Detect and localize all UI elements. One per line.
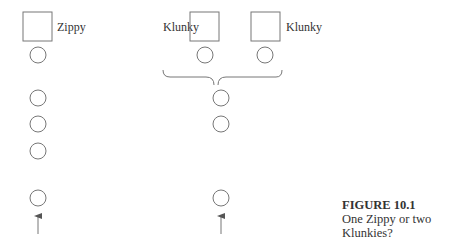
figure-number: FIGURE 10.1: [342, 198, 451, 212]
zippy-label: Zippy: [57, 20, 86, 34]
klunky-merged-circle-1: [213, 90, 229, 106]
figure-caption-text: One Zippy or two Klunkies?: [342, 212, 451, 240]
klunky-right-box: [251, 12, 280, 41]
klunky-left-circle: [197, 47, 213, 63]
zippy-circle-4: [30, 143, 46, 159]
zippy-box: [23, 12, 52, 41]
figure-caption: FIGURE 10.1 One Zippy or two Klunkies?: [342, 198, 451, 240]
zippy-circle-2: [30, 90, 46, 106]
klunky-left-label: Klunky: [163, 20, 199, 34]
klunky-merged-circle-2: [213, 116, 229, 132]
klunky-right-label: Klunky: [286, 20, 322, 34]
merge-brace: [163, 70, 282, 85]
klunky-right-circle: [257, 47, 273, 63]
zippy-circle-5: [30, 190, 46, 206]
klunky-merged-circle-3: [213, 190, 229, 206]
zippy-circle-1: [30, 47, 46, 63]
zippy-circle-3: [30, 116, 46, 132]
